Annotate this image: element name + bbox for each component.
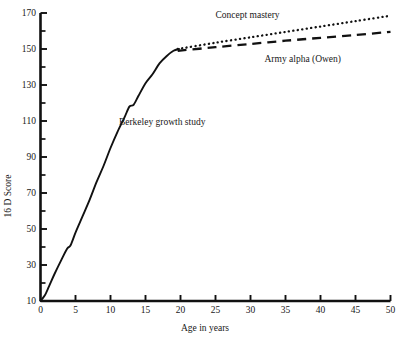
chart-container: 1030507090110130150170 05101520253035404…: [0, 0, 403, 337]
series-label-concept-mastery: Concept mastery: [216, 10, 280, 20]
series-line-concept-mastery: [178, 16, 391, 49]
y-axis-tick-label: 130: [22, 80, 37, 90]
series-label-berkeley-growth-study: Berkeley growth study: [119, 117, 206, 127]
x-axis-title: Age in years: [181, 323, 229, 333]
x-axis-tick-label: 10: [106, 305, 116, 315]
y-axis-tick-label: 150: [22, 44, 37, 54]
series-line-berkeley-growth-study: [41, 49, 180, 301]
growth-curve-chart: 1030507090110130150170 05101520253035404…: [0, 0, 403, 337]
x-axis-tick-label: 45: [351, 305, 361, 315]
x-axis-tick-label: 50: [386, 305, 396, 315]
y-axis-tick-label: 50: [27, 224, 37, 234]
series-line-army-alpha-owen: [178, 32, 391, 51]
x-axis-tick-label: 25: [211, 305, 221, 315]
y-axis-tick-label: 10: [27, 296, 37, 306]
y-axis-tick-label: 110: [22, 116, 36, 126]
x-axis-tick-label: 20: [176, 305, 186, 315]
y-axis-tick-label: 170: [22, 8, 37, 18]
x-axis-tick-label: 15: [141, 305, 151, 315]
y-axis: 1030507090110130150170: [22, 8, 47, 306]
x-axis: 05101520253035404550: [38, 295, 395, 315]
x-axis-tick-label: 40: [316, 305, 326, 315]
y-axis-tick-label: 30: [27, 260, 37, 270]
y-axis-tick-label: 90: [27, 152, 37, 162]
y-axis-tick-label: 70: [27, 188, 37, 198]
y-axis-title: 16 D Score: [3, 175, 13, 218]
x-axis-tick-label: 35: [281, 305, 291, 315]
x-axis-tick-label: 30: [246, 305, 256, 315]
x-axis-tick-label: 0: [38, 305, 43, 315]
series-label-army-alpha-owen: Army alpha (Owen): [265, 54, 342, 65]
x-axis-tick-label: 5: [73, 305, 78, 315]
